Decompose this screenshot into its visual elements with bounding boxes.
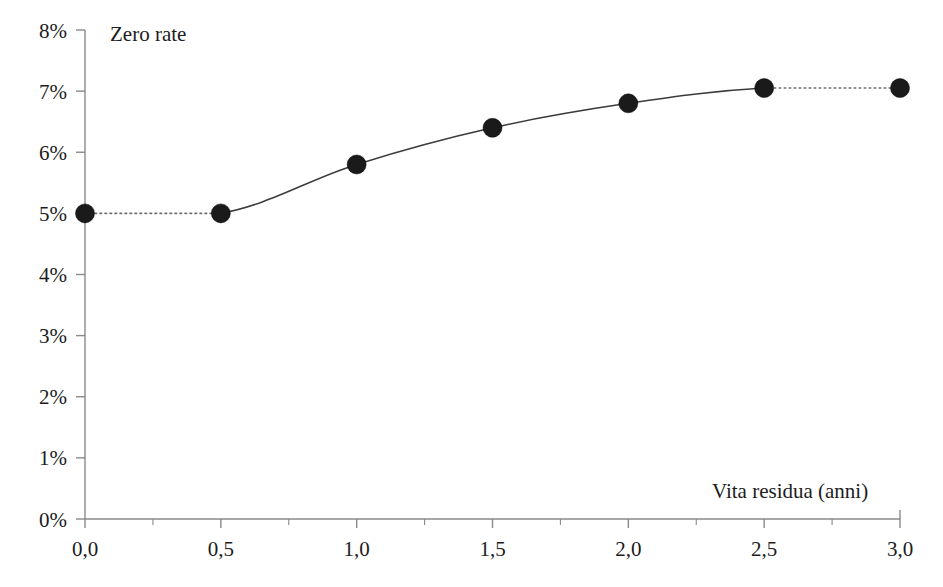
data-point-marker	[619, 94, 638, 113]
y-tick-label: 4%	[39, 263, 67, 287]
y-tick-label: 7%	[39, 80, 67, 104]
data-point-marker	[755, 79, 774, 98]
y-tick-label: 3%	[39, 324, 67, 348]
x-tick-label: 0,5	[208, 537, 234, 561]
x-tick-label: 3,0	[887, 537, 913, 561]
chart-x-tick-labels: 0,00,51,01,52,02,53,0	[72, 537, 913, 561]
chart-series-lines	[85, 88, 900, 213]
chart-axes	[85, 30, 900, 519]
y-tick-label: 0%	[39, 508, 67, 532]
y-tick-label: 1%	[39, 446, 67, 470]
x-axis-title: Vita residua (anni)	[712, 479, 868, 503]
data-point-marker	[211, 204, 230, 223]
data-point-marker	[76, 204, 95, 223]
chart-tick-marks	[76, 30, 900, 528]
y-tick-label: 2%	[39, 385, 67, 409]
x-tick-label: 1,5	[479, 537, 505, 561]
data-point-marker	[483, 118, 502, 137]
y-tick-label: 6%	[39, 141, 67, 165]
chart-plot-area: 0%1%2%3%4%5%6%7%8% 0,00,51,01,52,02,53,0…	[0, 0, 943, 587]
chart-y-tick-labels: 0%1%2%3%4%5%6%7%8%	[39, 19, 67, 532]
series-segment-solid	[628, 88, 764, 103]
y-axis-title: Zero rate	[110, 22, 186, 46]
data-point-marker	[347, 155, 366, 174]
x-tick-label: 2,5	[751, 537, 777, 561]
x-tick-label: 1,0	[344, 537, 370, 561]
chart-data-point-markers	[76, 79, 910, 223]
y-tick-label: 5%	[39, 202, 67, 226]
x-tick-label: 2,0	[615, 537, 641, 561]
series-segment-solid	[221, 164, 357, 213]
data-point-marker	[891, 79, 910, 98]
zero-rate-chart: 0%1%2%3%4%5%6%7%8% 0,00,51,01,52,02,53,0…	[0, 0, 943, 587]
x-tick-label: 0,0	[72, 537, 98, 561]
series-segment-solid	[357, 128, 493, 165]
series-segment-solid	[493, 103, 629, 127]
y-tick-label: 8%	[39, 19, 67, 43]
